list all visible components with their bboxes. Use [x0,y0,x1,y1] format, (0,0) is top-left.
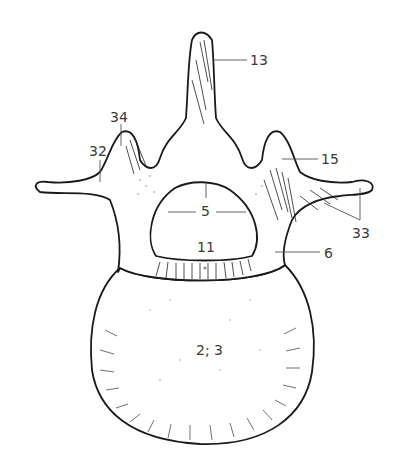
label-15: 15 [321,152,339,166]
label-33: 33 [352,226,370,240]
label-34: 34 [110,110,128,124]
label-6: 6 [324,246,333,260]
label-11: 11 [197,240,215,254]
label-32: 32 [89,144,107,158]
vertebra-illustration: 13 34 32 15 5 11 6 33 2; 3 [0,0,400,469]
label-2-3: 2; 3 [196,343,223,357]
label-5: 5 [201,204,210,218]
vertebra-drawing [0,0,400,469]
label-13: 13 [250,53,268,67]
